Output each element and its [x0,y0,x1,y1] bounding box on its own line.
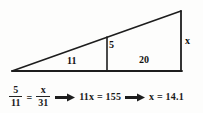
arrow-right-icon-1 [55,93,75,102]
equals-sign: = [26,92,32,103]
triangle-diagram [0,0,203,80]
fraction-right-denominator: 31 [36,97,50,108]
worksheet-page: 11 20 5 x 5 11 = x 31 11x = 155 [0,0,203,113]
proportion-equation: 5 11 = x 31 11x = 155 x = 14.1 [0,79,203,113]
step-one-expression: 11x = 155 [79,91,121,102]
label-base-left-segment: 11 [67,56,76,66]
arrow-right-icon-2 [125,93,145,102]
fraction-left: 5 11 [9,85,22,108]
fraction-left-numerator: 5 [11,85,20,96]
triangle-hypotenuse [12,11,181,71]
label-base-right-segment: 20 [139,55,149,65]
step-two-solution: x = 14.1 [149,91,184,102]
label-inner-height: 5 [109,40,114,50]
fraction-right-numerator: x [39,85,48,96]
label-outer-height: x [185,36,190,46]
fraction-right: x 31 [36,85,50,108]
fraction-left-denominator: 11 [9,97,22,108]
